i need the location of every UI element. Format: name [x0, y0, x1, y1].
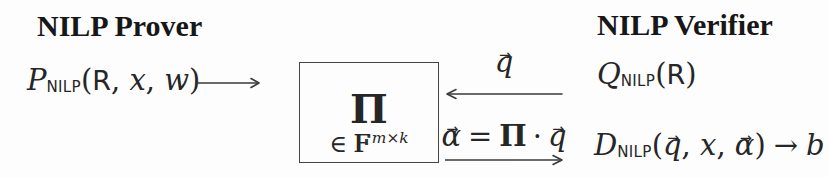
matrix-membership: ∈Fm×k: [329, 130, 408, 159]
open-paren: (: [655, 57, 666, 91]
response-message-label: →α=Π·→q: [441, 122, 567, 151]
separator: ,: [146, 63, 164, 97]
open-paren: (: [652, 128, 663, 162]
vector-arrow-icon: →: [740, 131, 752, 146]
decision-output: b: [806, 128, 825, 162]
decision-call-subscript: NILP: [617, 143, 651, 161]
query-message-label: →q: [445, 48, 563, 77]
separator: ,: [716, 128, 734, 162]
maps-to-arrow: →: [774, 128, 798, 162]
dimension-k: k: [399, 129, 408, 147]
proof-matrix-symbol: Π: [350, 89, 388, 129]
witness-arg: w: [164, 63, 189, 97]
times-symbol: ×: [386, 129, 399, 147]
matrix-dimensions-superscript: m×k: [372, 129, 409, 147]
close-paren: ): [685, 57, 696, 91]
equals-sign: =: [468, 119, 492, 153]
response-arrow: [445, 153, 566, 167]
prover-message-arrow: [195, 76, 263, 90]
dimension-m: m: [372, 129, 387, 147]
query-call-subscript: NILP: [621, 72, 655, 90]
element-of-symbol: ∈: [329, 130, 347, 158]
relation-arg: R: [667, 59, 686, 90]
statement-arg: x: [700, 128, 716, 162]
prover-call-letter: P: [27, 63, 47, 97]
vector-arrow-icon: →: [552, 122, 564, 137]
decision-query-vector: →q: [663, 131, 682, 160]
separator: ,: [682, 128, 700, 162]
query-call-letter: Q: [597, 57, 621, 91]
prover-call-subscript: NILP: [47, 78, 81, 96]
open-paren: (: [81, 63, 92, 97]
verifier-heading: NILP Verifier: [597, 10, 773, 40]
vector-arrow-icon: →: [667, 131, 679, 146]
response-matrix-symbol: Π: [499, 119, 526, 153]
prover-call: PNILP(R, x, w): [27, 66, 200, 95]
vector-arrow-icon: →: [446, 122, 458, 137]
query-arrow: [445, 87, 563, 101]
verifier-decision-call: DNILP(→q, x, →α)→b: [594, 131, 825, 160]
answer-vector: →α: [441, 122, 461, 151]
proof-matrix-box: Π ∈Fm×k: [299, 62, 439, 163]
close-paren: ): [754, 128, 765, 162]
response-query-vector: →q: [548, 122, 567, 151]
decision-answer-vector: →α: [735, 131, 755, 160]
vector-arrow-icon: →: [499, 48, 511, 63]
verifier-query-call: QNILP(R): [597, 60, 697, 89]
dot-operator: ·: [533, 119, 542, 153]
relation-arg: R: [92, 65, 111, 96]
separator: ,: [111, 63, 129, 97]
decision-call-letter: D: [594, 128, 617, 162]
query-vector: →q: [495, 48, 514, 77]
prover-heading: NILP Prover: [37, 11, 202, 41]
field-f-symbol: F: [353, 130, 370, 158]
statement-arg: x: [129, 63, 145, 97]
